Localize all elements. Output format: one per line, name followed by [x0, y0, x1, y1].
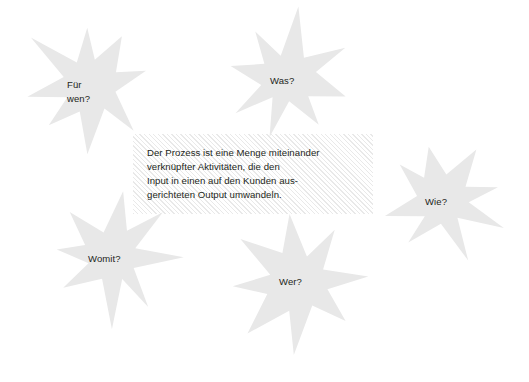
star-shape-fuer-wen — [27, 28, 146, 154]
process-definition-text: Der Prozess ist eine Menge miteinander v… — [147, 146, 379, 202]
diagram-canvas: Der Prozess ist eine Menge miteinander v… — [0, 0, 529, 382]
star-shape-wer — [233, 214, 369, 355]
star-label-womit: Womit? — [88, 252, 121, 266]
star-label-fuer-wen: Für wen? — [67, 78, 90, 105]
star-label-wer: Wer? — [279, 275, 302, 289]
star-label-was: Was? — [270, 74, 294, 88]
star-label-wie: Wie? — [425, 195, 447, 209]
star-shape-wie — [385, 147, 504, 261]
star-shape-was — [231, 7, 346, 137]
